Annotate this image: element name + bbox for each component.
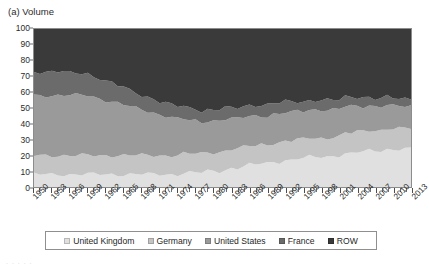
y-axis-tick-label: 70: [21, 72, 30, 81]
legend-item-france[interactable]: France: [279, 236, 315, 246]
x-axis-tick-label: 2013: [410, 182, 429, 201]
y-axis-tick-mark: [30, 188, 33, 189]
y-axis-tick-mark: [30, 108, 33, 109]
legend-swatch-icon: [64, 238, 70, 244]
y-axis-tick-mark: [30, 140, 33, 141]
y-axis-tick-label: 20: [21, 152, 30, 161]
y-axis-tick-mark: [30, 156, 33, 157]
chart-legend: United KingdomGermanyUnited StatesFrance…: [45, 231, 377, 250]
legend-swatch-icon: [148, 238, 154, 244]
y-axis-tick-label: 40: [21, 120, 30, 129]
y-axis-tick-label: 80: [21, 56, 30, 65]
legend-item-label: United Kingdom: [73, 236, 134, 246]
y-axis-tick-mark: [30, 76, 33, 77]
legend-item-united-kingdom[interactable]: United Kingdom: [64, 236, 134, 246]
legend-item-united-states[interactable]: United States: [205, 236, 266, 246]
y-axis-tick-mark: [30, 28, 33, 29]
y-axis-tick-label: 30: [21, 136, 30, 145]
y-axis-tick-label: 50: [21, 104, 30, 113]
legend-swatch-icon: [205, 238, 211, 244]
legend-swatch-icon: [328, 238, 334, 244]
y-axis-tick-label: 10: [21, 168, 30, 177]
legend-item-row[interactable]: ROW: [328, 236, 358, 246]
legend-item-germany[interactable]: Germany: [148, 236, 192, 246]
y-axis-tick-label: 60: [21, 88, 30, 97]
legend-swatch-icon: [279, 238, 285, 244]
stacked-area-svg: [34, 29, 411, 187]
legend-item-label: Germany: [157, 236, 192, 246]
y-axis-tick-mark: [30, 124, 33, 125]
y-axis-tick-label: 90: [21, 40, 30, 49]
y-axis: 0102030405060708090100: [0, 28, 30, 188]
y-axis-tick-mark: [30, 60, 33, 61]
y-axis-tick-mark: [30, 92, 33, 93]
plot-area: [33, 28, 412, 188]
y-axis-tick-mark: [30, 172, 33, 173]
legend-item-label: United States: [214, 236, 266, 246]
legend-item-label: France: [288, 236, 315, 246]
y-axis-tick-mark: [30, 44, 33, 45]
page-title: (a) Volume: [8, 6, 54, 17]
legend-item-label: ROW: [337, 236, 358, 246]
plot-frame: [33, 28, 412, 188]
x-axis-labels: 1950195319561959196219651968197119741977…: [0, 193, 421, 233]
page-artifact-text: . . . . .: [6, 258, 33, 265]
y-axis-tick-label: 100: [16, 24, 30, 33]
